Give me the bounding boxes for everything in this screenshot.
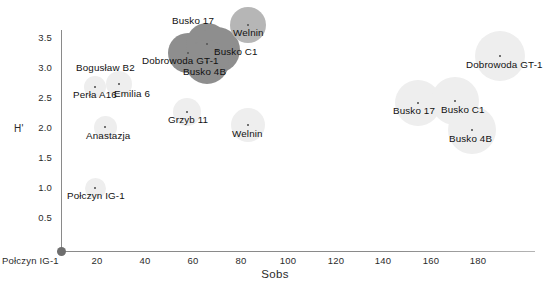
label-polczyn-ig1: Połczyn IG-1 [67, 190, 125, 201]
point-dot-perla-a16 [94, 86, 96, 88]
point-dot-welnin-dark [247, 24, 249, 26]
label-busko-4b-dark: Busko 4B [183, 66, 226, 77]
label-dobrowoda-gt1-light: Dobrowoda GT-1 [466, 59, 543, 70]
plot-area: Busko 17 Welnin Busko C1 Dobrowoda GT-1 … [0, 0, 550, 293]
label-welnin-light: Welnin [232, 128, 263, 139]
label-busko-4b-light: Busko 4B [449, 133, 492, 144]
label-busko-17-dark: Busko 17 [172, 15, 214, 26]
label-emilia-6: Emilia 6 [114, 88, 150, 99]
point-dot-anastazja [104, 126, 106, 128]
point-dot-dobrowoda-gt1-light [499, 55, 501, 57]
point-dot-busko-17-dark [206, 43, 208, 45]
point-dot-busko-17-light [417, 102, 419, 104]
label-busko-c1-light: Busko C1 [441, 104, 485, 115]
point-dot-dobrowoda-gt1-dark [187, 52, 189, 54]
label-welnin-dark: Welnin [233, 27, 264, 38]
point-dot-grzyb-11 [186, 111, 188, 113]
label-anastazja: Anastazja [86, 130, 130, 141]
label-grzyb-11: Grzyb 11 [168, 114, 208, 125]
label-busko-c1-dark: Busko C1 [214, 46, 258, 57]
point-dot-welnin-light [247, 124, 249, 126]
label-boguslaw-b2: Bogusław B2 [76, 62, 135, 73]
label-dobrowoda-gt1-dark: Dobrowoda GT-1 [142, 55, 219, 66]
point-dot-busko-c1-light [454, 100, 456, 102]
label-busko-17-light: Busko 17 [393, 105, 435, 116]
point-dot-emilia-6 [118, 83, 120, 85]
point-dot-busko-4b-light [471, 129, 473, 131]
bubble-chart: 3.5 3.0 2.5 2.0 1.5 1.0 0.5 20 40 60 80 … [0, 0, 550, 293]
label-perla-a16: Perła A16 [73, 89, 117, 100]
point-dot-polczyn-ig1 [94, 187, 96, 189]
